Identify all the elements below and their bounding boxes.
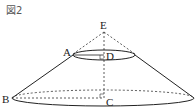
bottom-circle-front: [12, 98, 194, 106]
label-b: B: [2, 93, 9, 105]
slant-side-right: [135, 55, 194, 98]
label-a: A: [63, 46, 71, 58]
label-e: E: [100, 19, 107, 31]
label-d: D: [106, 50, 114, 62]
slant-side-left: [12, 55, 73, 98]
right-angle-c: [100, 94, 104, 98]
label-c: C: [106, 96, 113, 108]
frustum-figure: 図2 E A D B C: [0, 0, 196, 112]
right-angle-d: [100, 55, 104, 59]
frustum-diagram: E A D B C: [0, 0, 196, 112]
figure-title: 図2: [6, 2, 22, 17]
